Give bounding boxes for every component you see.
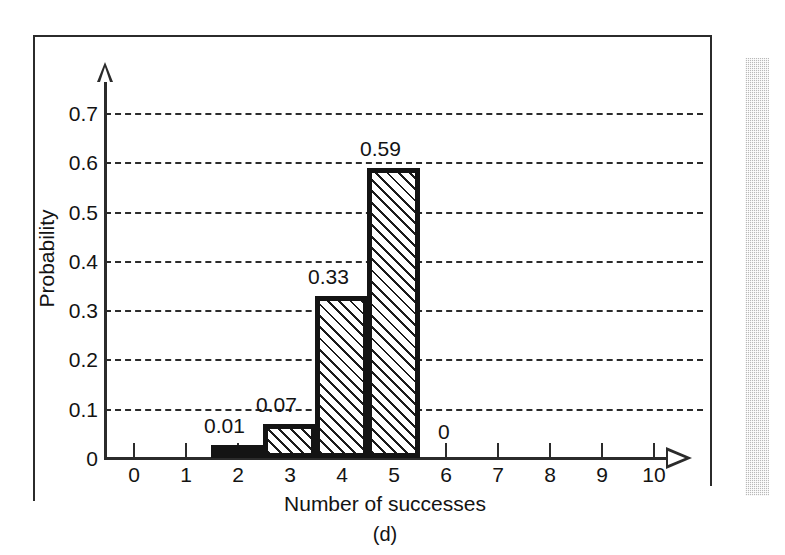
- y-axis-line: [104, 78, 107, 460]
- gridline-0.6: [105, 162, 703, 164]
- x-tick-9: [601, 443, 603, 457]
- y-tick-label-0.1: 0.1: [28, 399, 98, 420]
- x-tick-label-1: 1: [166, 462, 206, 487]
- bar-category-4: [315, 296, 368, 458]
- y-tick-label-0.7: 0.7: [28, 103, 98, 124]
- bar-category-2: [211, 445, 264, 458]
- x-tick-label-0: 0: [114, 462, 154, 487]
- x-tick-label-2: 2: [218, 462, 258, 487]
- x-axis-title: Number of successes: [185, 492, 585, 516]
- x-tick-7: [497, 443, 499, 457]
- bar-value-label-5: 0.59: [360, 138, 401, 159]
- x-tick-10: [653, 443, 655, 457]
- bar-category-5: [367, 168, 420, 458]
- x-tick-8: [549, 443, 551, 457]
- gridline-0.7: [105, 113, 703, 115]
- y-tick-label-0.6: 0.6: [28, 152, 98, 173]
- bar-value-label-6: 0: [438, 421, 450, 442]
- x-tick-label-3: 3: [270, 462, 310, 487]
- x-tick-label-5: 5: [374, 462, 414, 487]
- x-tick-label-4: 4: [322, 462, 362, 487]
- y-axis-title: Probability: [36, 179, 57, 339]
- bar-chart-plot-area: 0.7 0.6 0.5 0.4 0.3 0.2 0.1 0 0 1 2 3 4 …: [0, 0, 785, 555]
- y-tick-label-0: 0: [28, 448, 98, 469]
- x-tick-label-6: 6: [426, 462, 466, 487]
- x-tick-label-10: 10: [634, 462, 674, 487]
- x-tick-label-7: 7: [478, 462, 518, 487]
- x-tick-label-8: 8: [530, 462, 570, 487]
- x-tick-0: [133, 443, 135, 457]
- y-tick-label-0.2: 0.2: [28, 349, 98, 370]
- bar-value-label-4: 0.33: [308, 266, 349, 287]
- y-axis-arrow-icon: [97, 62, 113, 82]
- x-tick-6: [445, 443, 447, 457]
- bar-value-label-3: 0.07: [256, 394, 297, 415]
- figure-root: 0.7 0.6 0.5 0.4 0.3 0.2 0.1 0 0 1 2 3 4 …: [0, 0, 785, 555]
- bar-category-3: [263, 424, 316, 458]
- panel-caption: (d): [255, 523, 515, 546]
- x-tick-label-9: 9: [582, 462, 622, 487]
- bar-value-label-2: 0.01: [204, 415, 245, 436]
- x-tick-1: [185, 443, 187, 457]
